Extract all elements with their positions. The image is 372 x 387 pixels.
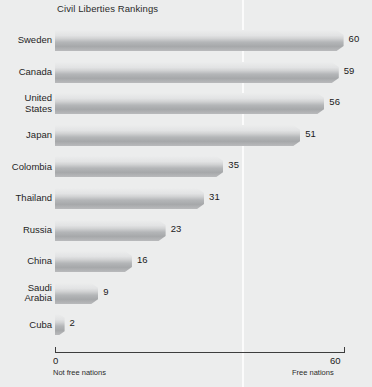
bar-row: Colombia35	[0, 151, 372, 183]
bar	[55, 283, 98, 304]
category-label: Saudi Arabia	[0, 283, 52, 304]
category-label: Colombia	[0, 162, 52, 173]
axis-tick-label-0: 0	[53, 355, 58, 366]
bar	[55, 251, 132, 272]
bar-row: Japan51	[0, 120, 372, 152]
bar	[55, 188, 204, 209]
bar-value-label: 23	[171, 223, 182, 234]
bar-value-label: 51	[305, 128, 316, 139]
bar-value-label: 35	[228, 159, 239, 170]
axis-line	[55, 352, 345, 353]
chart-container: Civil Liberties Rankings Sweden60Canada5…	[0, 0, 372, 387]
bar	[55, 30, 344, 51]
bar-row: Sweden60	[0, 25, 372, 57]
bar-value-label: 16	[137, 254, 148, 265]
category-label: Russia	[0, 225, 52, 236]
category-label: Canada	[0, 67, 52, 78]
bar-value-label: 31	[209, 191, 220, 202]
plot-area: Sweden60Canada59United States56Japan51Co…	[0, 0, 372, 340]
bar-value-label: 59	[344, 65, 355, 76]
bar-row: Cuba2	[0, 309, 372, 341]
bar	[55, 314, 65, 335]
category-label: United States	[0, 93, 52, 114]
bar-value-label: 9	[103, 286, 108, 297]
bar-value-label: 56	[329, 96, 340, 107]
category-label: China	[0, 256, 52, 267]
x-axis: 0 60 Not free nations Free nations	[0, 340, 372, 387]
bar-value-label: 2	[70, 317, 75, 328]
bar	[55, 93, 324, 114]
axis-tick-0	[55, 347, 56, 353]
category-label: Cuba	[0, 320, 52, 331]
bar-row: Russia23	[0, 215, 372, 247]
bar	[55, 220, 166, 241]
bar-row: China16	[0, 246, 372, 278]
axis-tick-label-60: 60	[330, 355, 341, 366]
axis-caption-right: Free nations	[292, 368, 334, 377]
category-label: Thailand	[0, 193, 52, 204]
axis-caption-left: Not free nations	[53, 368, 106, 377]
bar-row: Saudi Arabia9	[0, 278, 372, 310]
bar-row: United States56	[0, 88, 372, 120]
bar	[55, 125, 300, 146]
bar-row: Thailand31	[0, 183, 372, 215]
category-label: Japan	[0, 130, 52, 141]
bar-row: Canada59	[0, 57, 372, 89]
bar-value-label: 60	[349, 33, 360, 44]
category-label: Sweden	[0, 35, 52, 46]
bar	[55, 156, 223, 177]
bar	[55, 62, 339, 83]
axis-tick-60	[344, 347, 345, 353]
